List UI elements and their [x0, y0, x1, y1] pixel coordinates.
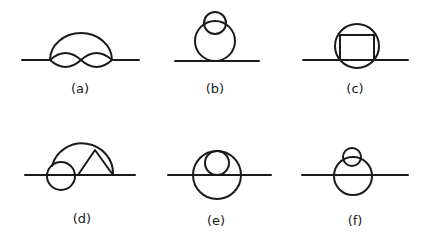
- label-f: (f): [348, 213, 363, 228]
- diagram-d: (d): [25, 143, 135, 226]
- label-a: (a): [71, 81, 89, 96]
- inner-rectangle: [340, 35, 374, 60]
- inner-circle: [205, 151, 229, 175]
- diagram-a: (a): [22, 33, 139, 96]
- diagram-e: (e): [168, 151, 271, 228]
- label-c: (c): [346, 81, 363, 96]
- label-d: (d): [73, 211, 91, 226]
- diagram-canvas: (a) (b) (c) (d) (e) (f): [0, 0, 436, 235]
- diagram-f: (f): [302, 148, 408, 228]
- triangle: [78, 150, 113, 175]
- large-circle: [195, 21, 235, 61]
- label-e: (e): [207, 213, 225, 228]
- circle: [335, 24, 379, 68]
- diagram-b: (b): [175, 12, 259, 96]
- lens-right: [81, 53, 112, 67]
- outer-arc: [50, 33, 112, 60]
- lens-left: [50, 53, 81, 67]
- label-b: (b): [206, 81, 224, 96]
- outer-arc: [52, 143, 113, 175]
- diagram-c: (c): [303, 24, 408, 96]
